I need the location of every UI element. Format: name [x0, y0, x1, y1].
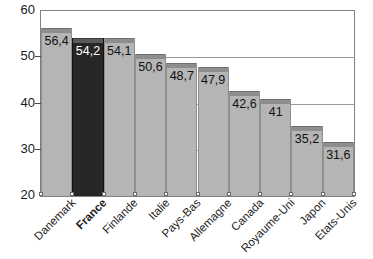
bar-cap	[73, 38, 102, 43]
axis-tick-square	[258, 192, 262, 196]
bar-value-label: 54,2	[73, 45, 102, 58]
bars-group: 56,454,254,150,648,747,942,64135,231,6	[41, 11, 354, 196]
bar-chart: 2030405060 56,454,254,150,648,747,942,64…	[0, 0, 373, 259]
bar-value-label: 41	[261, 106, 290, 119]
bar-slot: 56,4	[41, 11, 72, 196]
bar-value-label: 48,7	[167, 70, 196, 83]
axis-tick-square	[321, 192, 325, 196]
bar-royaume-uni[interactable]: 41	[260, 99, 291, 196]
axis-tick-square	[39, 192, 43, 196]
bar-slot: 54,2	[72, 11, 103, 196]
bar-cap	[136, 54, 165, 59]
x-axis-label-danemark: Danemark	[32, 197, 78, 243]
bar-slot: 47,9	[198, 11, 229, 196]
bar-cap	[261, 99, 290, 104]
bar-value-label: 35,2	[292, 133, 321, 146]
axis-tick-square	[352, 192, 356, 196]
bar-slot: 31,6	[323, 11, 354, 196]
bar-canada[interactable]: 42,6	[229, 91, 260, 196]
bar-value-label: 42,6	[230, 98, 259, 111]
axis-tick-square	[196, 192, 200, 196]
bar-pays-bas[interactable]: 48,7	[166, 63, 197, 196]
bar-finlande[interactable]: 54,1	[104, 38, 135, 196]
y-axis-tick-label: 60	[1, 3, 35, 16]
axis-tick-square	[102, 192, 106, 196]
bar-etats-unis[interactable]: 31,6	[323, 142, 354, 196]
bar-danemark[interactable]: 56,4	[41, 28, 72, 196]
bar-slot: 48,7	[166, 11, 197, 196]
bar-slot: 50,6	[135, 11, 166, 196]
bar-value-label: 54,1	[105, 45, 134, 58]
axis-tick-square	[164, 192, 168, 196]
bar-cap	[230, 91, 259, 96]
bar-japon[interactable]: 35,2	[291, 126, 322, 196]
bar-value-label: 31,6	[324, 149, 353, 162]
bar-cap	[292, 126, 321, 131]
y-axis-tick-label: 50	[1, 49, 35, 62]
bar-cap	[105, 38, 134, 43]
bar-cap	[167, 63, 196, 68]
x-axis-labels: DanemarkFranceFinlandeItaliePays-BasAlle…	[0, 197, 373, 259]
bar-cap	[199, 67, 228, 72]
bar-slot: 35,2	[291, 11, 322, 196]
bar-slot: 41	[260, 11, 291, 196]
axis-tick-square	[133, 192, 137, 196]
bar-cap	[42, 28, 71, 33]
bar-slot: 54,1	[104, 11, 135, 196]
bar-italie[interactable]: 50,6	[135, 54, 166, 196]
axis-tick-square	[289, 192, 293, 196]
bar-france[interactable]: 54,2	[72, 38, 103, 196]
y-axis-tick-label: 30	[1, 142, 35, 155]
bar-value-label: 47,9	[199, 74, 228, 87]
x-axis-label-italie: Italie	[147, 197, 172, 222]
y-axis-tick-label: 40	[1, 96, 35, 109]
bar-value-label: 56,4	[42, 35, 71, 48]
axis-tick-square	[227, 192, 231, 196]
axis-tick-square	[70, 192, 74, 196]
bar-slot: 42,6	[229, 11, 260, 196]
bar-value-label: 50,6	[136, 61, 165, 74]
bar-allemagne[interactable]: 47,9	[198, 67, 229, 196]
bar-cap	[324, 142, 353, 147]
